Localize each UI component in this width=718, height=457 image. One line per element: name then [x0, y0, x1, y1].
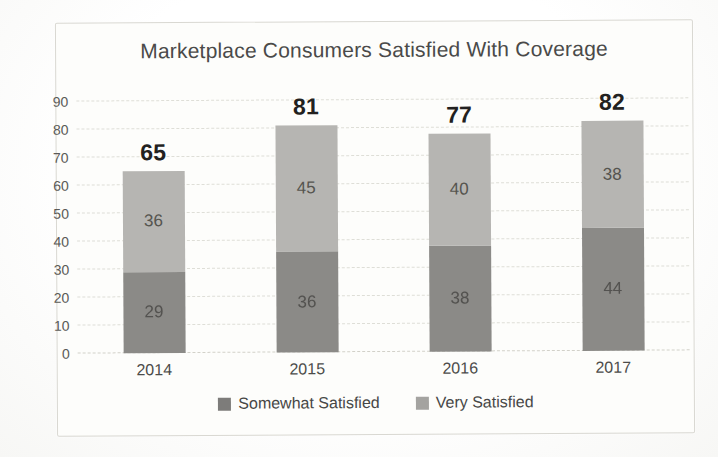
- legend-swatch-icon: [218, 397, 231, 410]
- plot-area: 0102030405060708090293665201436458120153…: [76, 98, 689, 353]
- bar-total-label: 77: [428, 101, 490, 128]
- bar-total-label: 82: [581, 89, 643, 116]
- segment-value-label: 38: [429, 288, 491, 308]
- segment-value-label: 38: [581, 164, 643, 184]
- legend-label: Very Satisfied: [436, 393, 534, 412]
- y-axis-tick-label: 60: [25, 178, 69, 194]
- bar-total-label: 81: [275, 93, 337, 120]
- y-axis-tick-label: 20: [25, 290, 69, 306]
- y-axis-tick-label: 50: [25, 206, 69, 222]
- segment-value-label: 36: [276, 292, 338, 312]
- chart-frame: Marketplace Consumers Satisfied With Cov…: [55, 19, 695, 436]
- y-axis-tick-label: 70: [25, 150, 69, 166]
- chart-legend: Somewhat SatisfiedVery Satisfied: [58, 392, 694, 413]
- segment-value-label: 29: [123, 302, 185, 322]
- x-axis-label-2014: 2014: [78, 361, 231, 380]
- legend-label: Somewhat Satisfied: [238, 394, 379, 413]
- y-axis-tick-label: 40: [25, 234, 69, 250]
- x-axis-label-2015: 2015: [231, 360, 384, 379]
- legend-item-very-satisfied: Very Satisfied: [416, 393, 534, 412]
- legend-swatch-icon: [416, 396, 429, 409]
- x-axis-label-2016: 2016: [384, 359, 537, 378]
- y-axis-tick-label: 0: [26, 346, 70, 362]
- chart-title: Marketplace Consumers Satisfied With Cov…: [56, 36, 692, 63]
- segment-value-label: 36: [122, 211, 184, 231]
- y-axis-tick-label: 10: [25, 318, 69, 334]
- y-axis-tick-label: 90: [24, 94, 68, 110]
- segment-value-label: 40: [428, 179, 490, 199]
- y-axis-tick-label: 30: [25, 262, 69, 278]
- segment-value-label: 44: [582, 279, 644, 299]
- y-axis-tick-label: 80: [24, 122, 68, 138]
- legend-item-somewhat-satisfied: Somewhat Satisfied: [218, 394, 379, 413]
- bar-total-label: 65: [122, 139, 184, 166]
- segment-value-label: 45: [275, 178, 337, 198]
- scanned-chart-photo: Marketplace Consumers Satisfied With Cov…: [0, 0, 718, 457]
- x-axis-label-2017: 2017: [537, 358, 690, 377]
